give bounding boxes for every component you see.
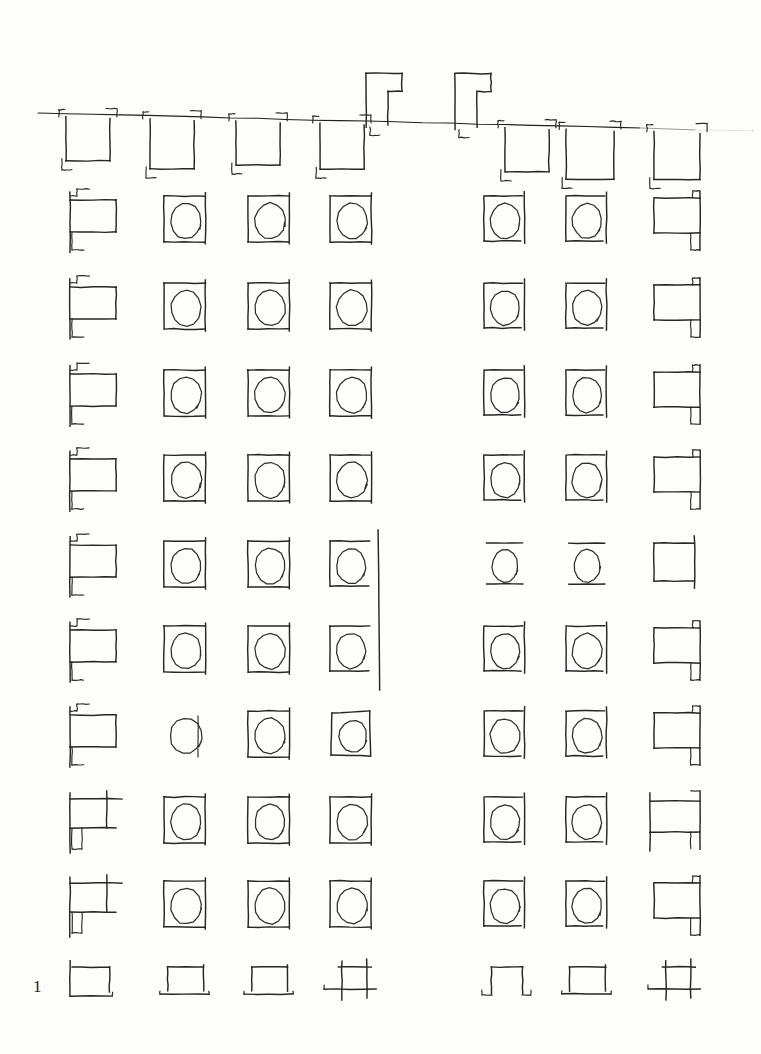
glyph-cell-r3-c2 — [164, 367, 206, 418]
glyph-cell-r1-c3 — [248, 193, 290, 244]
header-glyph-h2 — [143, 110, 202, 178]
header-glyph-h5 — [366, 73, 402, 136]
glyph-cell-r3-c7 — [654, 365, 700, 425]
glyph-cell-r7-c7 — [654, 706, 700, 765]
glyph-cell-r9-c3 — [248, 878, 290, 929]
header-glyph-h7 — [498, 119, 557, 181]
baseline-rule — [38, 113, 752, 131]
glyph-cell-r9-c2 — [164, 878, 206, 929]
glyph-cell-r5-c6 — [569, 543, 605, 584]
glyph-cell-r8-c5 — [484, 793, 525, 844]
glyph-cell-r8-c1 — [70, 791, 122, 853]
glyph-cell-r10-c1 — [70, 961, 113, 996]
glyph-cell-r6-c6 — [566, 622, 607, 673]
glyph-cell-r6-c5 — [484, 622, 525, 673]
glyph-cell-r6-c4 — [330, 626, 370, 671]
glyph-cell-r6-c2 — [164, 623, 206, 674]
glyph-cell-r1-c7 — [654, 191, 701, 251]
glyph-cell-r2-c2 — [164, 280, 206, 331]
glyph-cell-r4-c7 — [654, 450, 701, 509]
glyph-cell-r3-c6 — [566, 366, 607, 417]
glyph-cell-r7-c3 — [248, 708, 290, 759]
page-number: 1 — [33, 978, 42, 995]
glyph-cell-r2-c3 — [248, 280, 290, 331]
glyph-cell-r10-c2 — [160, 965, 210, 994]
glyph-cell-r1-c1 — [70, 189, 117, 253]
glyph-cell-r1-c4 — [330, 193, 372, 244]
glyph-cell-r7-c2 — [171, 716, 202, 757]
glyph-cell-r10-c5 — [482, 967, 531, 995]
glyph-cell-r2-c7 — [654, 278, 701, 338]
glyph-cell-r4-c1 — [70, 448, 117, 511]
glyph-cell-r7-c5 — [484, 707, 525, 758]
header-glyph-h3 — [229, 113, 288, 175]
glyph-cell-r10-c3 — [244, 965, 293, 994]
header-glyph-h4 — [313, 115, 372, 179]
glyph-cell-r1-c5 — [484, 192, 525, 243]
glyph-cell-r4-c5 — [484, 451, 525, 502]
glyph-cell-r9-c4 — [330, 878, 371, 929]
glyph-cell-r2-c6 — [566, 279, 607, 330]
glyph-cell-r8-c7 — [650, 791, 700, 851]
glyph-cell-r4-c6 — [566, 451, 607, 502]
glyph-cell-r10-c4 — [324, 959, 376, 1000]
glyph-cell-r7-c4 — [331, 711, 371, 756]
long-vertical-stroke — [378, 530, 380, 690]
glyph-cell-r6-c3 — [248, 623, 290, 674]
glyph-cell-r8-c4 — [330, 794, 372, 845]
glyph-cell-r9-c1 — [70, 875, 122, 937]
header-glyph-h1 — [59, 108, 118, 170]
glyph-cell-r10-c7 — [648, 959, 700, 1000]
glyph-cell-r6-c1 — [70, 619, 117, 682]
glyph-cell-r9-c6 — [566, 877, 607, 928]
glyph-cell-r2-c1 — [70, 276, 117, 339]
handwritten-glyph-artwork — [0, 0, 761, 1054]
glyph-cell-r5-c5 — [487, 543, 523, 584]
glyph-cell-r8-c3 — [248, 794, 290, 845]
glyph-cell-r10-c6 — [562, 965, 612, 994]
glyph-cell-r5-c7 — [654, 536, 695, 588]
stray-marks — [378, 530, 380, 690]
glyph-cell-r3-c5 — [484, 366, 525, 417]
glyph-cell-r5-c1 — [70, 534, 117, 597]
glyph-cell-r7-c1 — [70, 704, 116, 767]
header-glyph-h8 — [559, 121, 621, 189]
glyph-cell-r5-c4 — [330, 541, 370, 586]
glyph-cell-r4-c4 — [330, 452, 372, 503]
glyph-cell-r2-c4 — [330, 280, 372, 331]
glyph-cell-r6-c7 — [654, 621, 701, 681]
glyph-cell-r3-c4 — [330, 367, 372, 418]
glyph-cell-r4-c3 — [248, 452, 290, 503]
glyph-cell-r3-c1 — [70, 363, 117, 426]
top-row-hanging-glyphs — [59, 73, 707, 189]
glyph-cell-r1-c6 — [566, 192, 607, 243]
glyph-cell-r2-c5 — [484, 279, 525, 330]
glyph-cell-r1-c2 — [164, 193, 206, 244]
glyph-cell-r3-c3 — [248, 367, 290, 418]
glyph-cell-r5-c2 — [164, 538, 206, 589]
header-glyph-h9 — [647, 123, 708, 189]
glyph-cell-r7-c6 — [566, 707, 607, 758]
glyph-cell-r8-c2 — [164, 794, 206, 845]
paper-sheet: 1 — [0, 0, 761, 1054]
glyph-cell-r4-c2 — [164, 452, 206, 503]
glyph-cell-r8-c6 — [566, 793, 607, 844]
header-glyph-h6 — [455, 73, 492, 138]
glyph-cell-r5-c3 — [248, 538, 290, 589]
glyph-cell-r9-c5 — [484, 877, 525, 928]
glyph-grid — [70, 189, 701, 1000]
glyph-cell-r9-c7 — [654, 876, 701, 935]
